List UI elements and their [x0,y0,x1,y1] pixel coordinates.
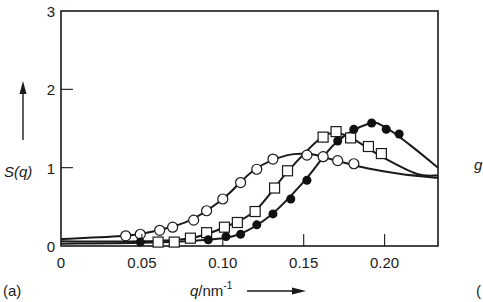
open-square-marker [283,166,293,176]
chart-svg: 00.050.100.150.200123 S(q) q/nm-1 (a) g … [0,0,483,302]
y-tick-label: 0 [47,238,55,255]
open-square-marker [185,233,195,243]
filled-circle-marker [302,176,311,185]
open-circle-marker [168,222,178,232]
x-axis-arrow-icon [247,288,306,295]
y-tick-label: 2 [47,81,55,98]
open-square-marker [346,133,356,143]
open-square-marker [169,237,179,247]
open-circle-marker [252,164,262,174]
open-circle-marker [202,206,212,216]
open-square-marker [331,127,341,137]
filled-circle-marker [268,209,277,218]
open-circle-marker [155,225,165,235]
open-circle-marker [349,159,359,169]
x-axis-label: q/nm-1 [190,280,233,299]
axis-labels: S(q) q/nm-1 (a) g ( [3,81,483,299]
x-tick-label: 0.20 [370,254,399,271]
open-circle-marker [268,154,278,164]
x-tick-label: 0 [57,254,65,271]
y-tick-label: 1 [47,160,55,177]
open-square-marker [363,142,373,152]
fit-curve [61,153,438,238]
open-square-marker [270,183,280,193]
open-circle-marker [189,215,199,225]
panel-label: (a) [3,282,21,299]
open-square-marker [318,132,328,142]
x-tick-label: 0.15 [289,254,318,271]
filled-circle-marker [236,230,245,239]
open-circle-marker [218,194,228,204]
open-square-marker [219,222,229,232]
x-tick-label: 0.05 [127,254,156,271]
open-square-marker [250,207,260,217]
fit-curves [61,123,438,244]
filled-circle-marker [349,125,358,134]
filled-circle-marker [286,195,295,204]
filled-circle-marker [382,125,391,134]
next-panel-paren-fragment: ( [476,282,481,299]
filled-circle-marker [395,129,404,138]
open-circle-marker [236,178,246,188]
filled-circle-marker [333,137,342,146]
plot-frame [61,11,438,246]
open-circle-marker [333,156,343,166]
data-markers [121,119,404,248]
filled-circle-marker [204,235,213,244]
filled-circle-marker [367,119,376,128]
x-tick-label: 0.10 [208,254,237,271]
open-circle-marker [318,152,328,162]
y-tick-label: 3 [47,3,55,20]
open-square-marker [153,237,163,247]
fit-curve [61,123,438,244]
open-circle-marker [302,150,312,160]
y-axis-label: S(q) [4,163,32,180]
open-square-marker [376,149,386,159]
open-circle-marker [121,231,131,241]
plot-border [61,11,438,246]
filled-circle-marker [136,238,145,247]
next-panel-label-fragment: g [474,156,483,173]
open-square-marker [232,218,242,228]
y-axis-arrow-icon [20,81,27,140]
filled-circle-marker [252,220,261,229]
